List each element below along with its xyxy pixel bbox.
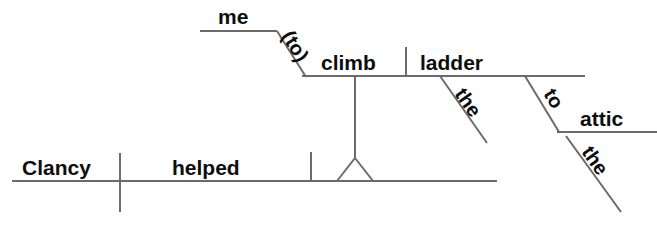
- word-subject: Clancy: [22, 156, 91, 179]
- word-verb: helped: [172, 156, 240, 179]
- word-climb: climb: [321, 51, 376, 74]
- word-ladder: ladder: [420, 51, 483, 74]
- word-infinitive-marker: (to): [278, 26, 314, 65]
- word-attic: attic: [580, 107, 624, 130]
- pedestal-left-leg: [337, 158, 355, 181]
- word-me: me: [218, 5, 248, 28]
- pedestal-right-leg: [355, 158, 373, 181]
- word-article-ladder: the: [451, 84, 486, 121]
- sentence-diagram: Clancy helped me (to) climb ladder the t…: [0, 0, 657, 227]
- diagram-canvas: Clancy helped me (to) climb ladder the t…: [0, 0, 657, 227]
- word-article-attic: the: [578, 142, 613, 179]
